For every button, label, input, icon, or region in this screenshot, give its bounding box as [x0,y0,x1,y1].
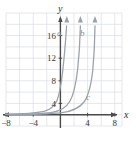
x-tick-label-neg8: −8 [1,118,11,128]
y-tick-label-4: 4 [52,99,57,109]
x-tick-label-4: 4 [85,118,90,128]
x-tick-label-8: 8 [113,118,118,128]
y-tick-label-16: 16 [47,31,57,41]
y-tick-label-8: 8 [52,76,57,86]
exponential-functions-graph: 16 12 8 4 −8 −4 4 8 y x a b c [0,0,136,142]
y-tick-label-12: 12 [47,53,56,63]
y-axis-label: y [57,3,63,14]
x-axis-label: x [123,109,129,120]
curve-label-a: a [57,28,62,38]
coordinate-plane: 16 12 8 4 −8 −4 4 8 y x a b c [0,0,136,142]
grid-lines [6,13,122,126]
curve-label-b: b [80,28,85,38]
x-tick-label-neg4: −4 [28,118,38,128]
curve-label-c: c [86,92,90,102]
curve-b [6,16,83,114]
